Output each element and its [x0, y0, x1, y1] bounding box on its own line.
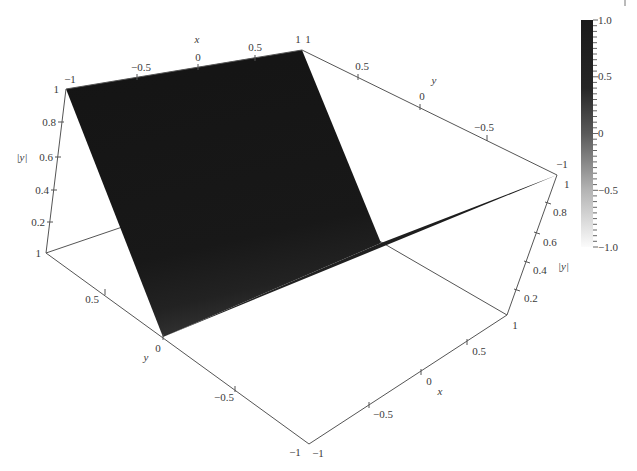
axis-title-x: x — [194, 33, 200, 45]
colorbar-label: −1.0 — [598, 241, 618, 253]
tick-label: 1 — [564, 178, 570, 190]
tick-label: 0.8 — [42, 116, 56, 128]
colorbar-label: −0.5 — [598, 184, 618, 196]
tick-label: 0.2 — [524, 292, 538, 304]
tick-label: 0.5 — [85, 293, 99, 305]
tick-label: 1 — [305, 33, 311, 45]
tick-label: −0.5 — [373, 408, 393, 420]
tick-label: −0.5 — [474, 121, 494, 133]
tick-label: 0 — [155, 342, 161, 354]
tick-label: 1 — [512, 319, 518, 331]
tick-label: 0.5 — [248, 41, 262, 53]
tick-label: 0.4 — [533, 264, 547, 276]
tick-label: −0.5 — [214, 391, 234, 403]
tick-label: 0 — [426, 375, 432, 387]
colorbar-label: 0.5 — [598, 70, 612, 82]
tick-label: 0.6 — [543, 236, 557, 248]
colorbar: 1.0 0.5 0 −0.5 −1.0 — [581, 14, 618, 253]
tick-label: 0.5 — [472, 345, 486, 357]
axis-title-y: y — [431, 74, 437, 86]
tick-label: 0.6 — [39, 151, 53, 163]
tick-label: −1 — [556, 158, 568, 170]
tick-label: 1 — [36, 247, 42, 259]
surface-plot: −1 −0.5 0 0.5 1 x 1 0.5 0 −0.5 −1 y 1 0.… — [0, 0, 637, 471]
surface — [66, 50, 557, 337]
tick-label: 0 — [195, 51, 201, 63]
tick-label: 0.2 — [31, 216, 45, 228]
front-x-axis: −1 −0.5 0 0.5 1 x — [309, 315, 518, 459]
tick-label: 1 — [54, 83, 60, 95]
tick-label: 0 — [419, 90, 425, 102]
axis-title-x: x — [437, 385, 443, 397]
colorbar-gradient — [581, 20, 593, 247]
tick-label: 1 — [295, 33, 301, 45]
tick-label: −0.5 — [131, 61, 151, 73]
axis-title-z: |y| — [17, 151, 28, 163]
tick-label: 0.4 — [35, 184, 49, 196]
tick-label: −1 — [289, 446, 301, 458]
colorbar-label: 1.0 — [598, 14, 612, 26]
surface-plane-positive-y — [66, 50, 381, 337]
tick-label: −1 — [312, 447, 324, 459]
tick-label: −1 — [64, 73, 76, 85]
left-z-axis: 1 0.8 0.6 0.4 0.2 1 |y| — [17, 83, 66, 259]
tick-label: 0.5 — [355, 60, 369, 72]
axis-title-z: |y| — [558, 260, 569, 272]
right-z-axis: 0.2 0.4 0.6 0.8 1 |y| — [507, 175, 570, 315]
colorbar-label: 0 — [598, 127, 604, 139]
tick-label: 0.8 — [553, 206, 567, 218]
axis-title-y: y — [143, 351, 149, 363]
